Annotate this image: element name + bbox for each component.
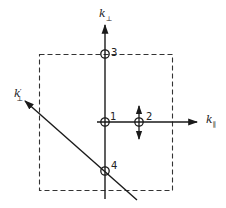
k-perp-label-subscript: ⊥ [106, 15, 113, 23]
point-2-label: 2 [146, 112, 152, 122]
k-perp-label-base: k [99, 7, 106, 20]
point-3-label: 3 [111, 48, 117, 58]
k-par-label-base: k [206, 113, 213, 126]
k-par-label-subscript: ∥ [213, 121, 216, 129]
point-1-label: 1 [110, 112, 116, 122]
k-perp-prime-axis [25, 101, 137, 200]
k-space-diagram [0, 0, 226, 208]
k-perp-prime-label: k′⊥ [14, 88, 23, 99]
k-perp-prime-label-subscript: ⊥ [17, 95, 24, 103]
k-par-label: k∥ [206, 114, 216, 125]
point-4-label: 4 [111, 161, 117, 171]
k-perp-label: k⊥ [99, 8, 112, 19]
